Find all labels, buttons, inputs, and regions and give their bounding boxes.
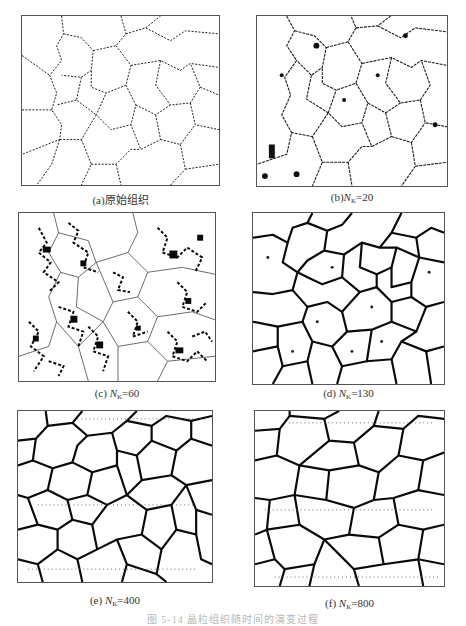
panel-caption-d: (d) NK=130 (252, 387, 445, 401)
panel-caption-f: (f) NK=800 (254, 597, 445, 611)
grain-structure-b (257, 16, 447, 186)
micrograph-panel-d (252, 212, 445, 385)
grain-structure-c (19, 213, 215, 381)
micrograph-panel-e (17, 410, 213, 583)
panel-caption-c: (c) NK=60 (18, 387, 216, 401)
grain-structure-a (22, 16, 219, 185)
grain-structure-f (255, 411, 444, 586)
panel-caption-e: (e) NK=400 (17, 594, 213, 608)
figure-caption: 图 5-14 晶粒组织随时间的演变过程 (0, 611, 466, 626)
micrograph-panel-c (18, 212, 216, 382)
micrograph-panel-b (256, 15, 448, 187)
micrograph-panel-f (254, 410, 445, 587)
grain-structure-e (18, 411, 212, 582)
grain-structure-d (253, 213, 444, 384)
panel-caption-a: (a)原始组织 (21, 191, 220, 207)
panel-caption-b: (b)NK=20 (256, 191, 448, 205)
micrograph-panel-a (21, 15, 220, 186)
